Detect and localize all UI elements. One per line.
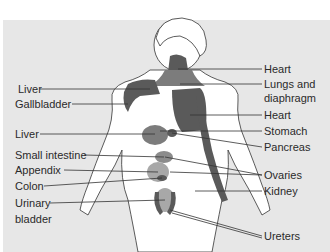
label-kidney: Kidney — [264, 185, 298, 197]
label-heart-lower: Heart — [264, 109, 291, 121]
label-liver-upper: Liver — [18, 83, 42, 95]
liver-region — [142, 125, 168, 145]
label-lungs-and: Lungs and — [264, 78, 315, 90]
label-urinary: Urinary — [15, 197, 50, 209]
label-bladder: bladder — [15, 213, 52, 225]
label-small-intestine: Small intestine — [15, 149, 87, 161]
label-liver-lower: Liver — [15, 128, 39, 140]
label-diaphragm: diaphragm — [264, 92, 316, 104]
label-pancreas: Pancreas — [264, 141, 310, 153]
label-ovaries: Ovaries — [264, 169, 302, 181]
label-colon: Colon — [15, 180, 44, 192]
label-appendix: Appendix — [15, 164, 61, 176]
label-heart-upper: Heart — [264, 63, 291, 75]
label-stomach: Stomach — [264, 125, 307, 137]
label-gallbladder: Gallbladder — [15, 98, 71, 110]
label-ureters: Ureters — [264, 230, 300, 242]
